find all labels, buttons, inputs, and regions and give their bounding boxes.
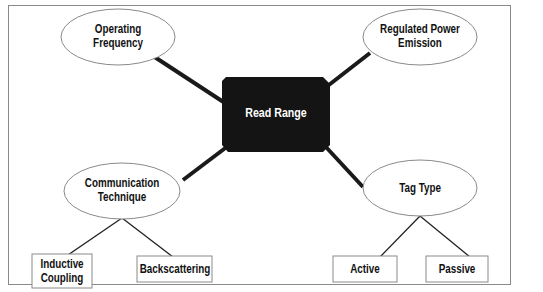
label-regulated-power-emission: Regulated Power Emission — [375, 22, 465, 50]
label-inductive-coupling: Inductive Coupling — [29, 257, 95, 285]
connector-communication-technique — [183, 146, 228, 180]
label-line: Communication — [77, 176, 167, 190]
label-operating-frequency: Operating Frequency — [77, 22, 159, 50]
connector-backscattering — [122, 218, 173, 257]
connector-active — [380, 216, 420, 257]
label-line: Frequency — [77, 36, 159, 50]
label-line: Read Range — [235, 106, 317, 120]
label-line: Active — [332, 262, 398, 276]
label-active: Active — [332, 262, 398, 276]
label-backscattering: Backscattering — [137, 262, 212, 276]
connector-regulated-power — [325, 53, 370, 88]
label-line: Backscattering — [137, 262, 212, 276]
label-line: Tag Type — [379, 181, 461, 195]
connector-passive — [420, 216, 470, 257]
label-line: Passive — [424, 262, 490, 276]
label-tag-type: Tag Type — [379, 181, 461, 195]
label-passive: Passive — [424, 262, 490, 276]
label-read-range: Read Range — [235, 106, 317, 120]
label-line: Coupling — [29, 271, 95, 285]
label-line: Technique — [77, 190, 167, 204]
label-line: Inductive — [29, 257, 95, 271]
connector-inductive-coupling — [65, 218, 122, 257]
connector-tag-type — [325, 146, 363, 187]
label-communication-technique: Communication Technique — [77, 176, 167, 204]
label-line: Operating — [77, 22, 159, 36]
connector-operating-frequency — [147, 52, 228, 105]
label-line: Regulated Power — [375, 22, 465, 36]
label-line: Emission — [375, 36, 465, 50]
